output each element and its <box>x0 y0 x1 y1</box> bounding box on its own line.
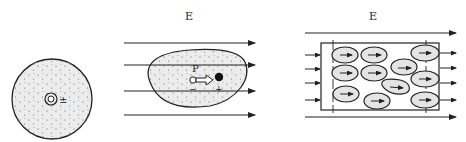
molecule <box>333 86 359 102</box>
outgoing-field-arrows <box>440 53 456 100</box>
incoming-field-arrows <box>305 55 320 100</box>
positive-sign: + <box>215 84 223 94</box>
charge-center-sign: ± <box>59 94 67 105</box>
polarized-molecules <box>332 45 439 109</box>
field-label-e: E <box>185 10 193 23</box>
molecule <box>411 71 439 87</box>
molecule <box>361 47 387 63</box>
molecule <box>332 47 358 63</box>
molecule <box>411 92 439 108</box>
molecule <box>361 65 387 81</box>
nucleus-inner <box>48 96 54 102</box>
panel-nonpolar-atom: ± <box>12 59 92 139</box>
molecule <box>391 59 417 75</box>
dielectric-polarization-diagram: ± E P − + E <box>0 0 466 142</box>
molecule <box>411 45 439 61</box>
molecule <box>332 65 358 81</box>
field-label-e: E <box>369 10 377 23</box>
molecule <box>364 93 390 109</box>
dipole-label-p: P <box>192 63 199 74</box>
negative-sign: − <box>189 84 197 94</box>
panel-polarized-dielectric: E <box>305 10 456 117</box>
negative-charge-center <box>190 77 196 83</box>
panel-induced-dipole: E P − + <box>124 10 255 115</box>
positive-charge-center <box>215 73 223 81</box>
